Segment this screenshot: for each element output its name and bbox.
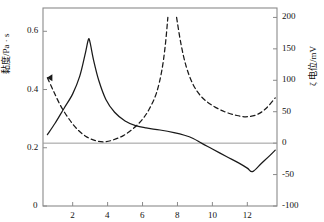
axes-frame [43,8,277,206]
data-series-group [47,17,275,171]
tick-label: 10 [208,211,217,220]
axis-ticks [43,17,277,206]
tick-label: 150 [282,44,296,53]
tick-label: 0 [33,201,38,210]
annotations-group [47,74,53,81]
series-line-1 [47,39,275,172]
tick-label: 0.6 [27,26,38,35]
y-axis-right-label: ζ 电位/mV [308,72,318,86]
plot-frame [43,8,277,206]
tick-label: 8 [175,211,180,220]
tick-label: -50 [282,170,294,179]
figure-container: 黏度/Pa · s ζ 电位/mV pH 2468101200.20.40.6-… [0,0,324,222]
tick-label: 4 [105,211,110,220]
tick-label: 12 [243,211,252,220]
tick-label: 0.4 [27,85,38,94]
tick-label: 0.2 [27,143,38,152]
tick-label: 50 [282,107,291,116]
chart-plot [0,0,324,222]
tick-label: -100 [282,201,299,210]
left-edge-arrow-icon [47,74,53,81]
series-line-2-seg2 [177,17,276,116]
tick-label: 200 [282,12,296,21]
y-axis-left-label: 黏度/Pa · s [1,60,11,74]
tick-label: 2 [70,211,75,220]
tick-label: 100 [282,75,296,84]
tick-label: 6 [140,211,145,220]
series-line-2-seg1 [47,17,167,141]
tick-label: 0 [282,138,287,147]
